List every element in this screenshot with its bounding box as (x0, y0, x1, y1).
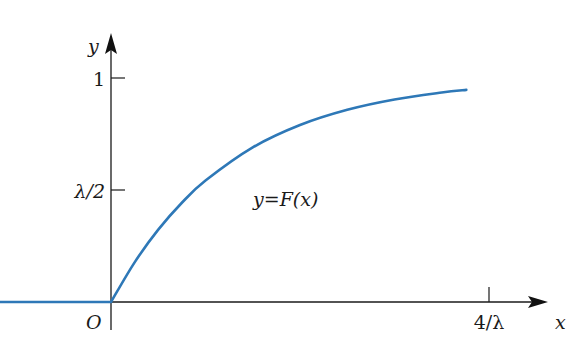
series-group (0, 90, 466, 302)
distribution-function-chart: x y O 1λ/24/λ y=F(x) (0, 0, 577, 354)
y-tick-label: λ/2 (73, 180, 105, 202)
series-line-f-x- (0, 90, 466, 302)
x-tick-label: 4/λ (474, 311, 505, 333)
x-axis-label: x (555, 311, 566, 333)
origin-label: O (86, 311, 102, 333)
function-label: y=F(x) (252, 188, 318, 210)
y-tick-label: 1 (93, 68, 105, 90)
y-axis-label: y (87, 35, 99, 57)
